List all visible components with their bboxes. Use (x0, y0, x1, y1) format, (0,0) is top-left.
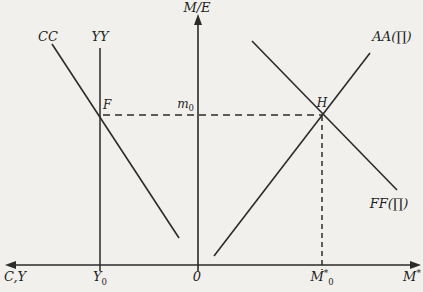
m0-label-sub: 0 (189, 103, 194, 113)
point-h-label-text: H (317, 96, 327, 110)
cc-line (52, 44, 179, 238)
ff-curve-label-text: FF(∏) (370, 196, 409, 211)
dd-aa-diagram: M/E CC YY F m0 H AA(∏) FF(∏) C,Y Y0 0 M*… (0, 0, 423, 292)
mstar0-tick-label: M*0 (310, 270, 333, 283)
yy-curve-label-text: YY (91, 29, 108, 44)
yy-curve-label: YY (91, 30, 108, 43)
mstar0-tick-label-sub: 0 (328, 277, 333, 287)
aa-curve-label-text: AA(∏) (372, 29, 411, 44)
point-f-label: F (103, 99, 111, 111)
horizontal-axis-right-label-sup: * (416, 268, 421, 278)
mstar0-tick-label-main: M (310, 269, 323, 284)
origin-label: 0 (193, 270, 201, 283)
y0-tick-label-sub: 0 (102, 277, 107, 287)
diagram-canvas (0, 0, 423, 292)
cc-curve-label-text: CC (38, 29, 58, 44)
aa-line (214, 53, 370, 256)
vertical-axis-label-text: M/E (183, 0, 210, 15)
horizontal-axis-left-label-text: C,Y (4, 269, 26, 284)
m0-label: m0 (177, 98, 194, 110)
horizontal-axis-left-label: C,Y (4, 270, 26, 283)
aa-curve-label: AA(∏) (372, 30, 411, 43)
point-f-label-text: F (103, 98, 111, 112)
cc-curve-label: CC (38, 30, 58, 43)
horizontal-axis-right-label: M* (403, 270, 421, 283)
y0-tick-label-main: Y (93, 269, 102, 284)
left-arrowhead-icon (5, 261, 16, 269)
up-arrowhead-icon (194, 14, 202, 25)
horizontal-axis-right-label-main: M (403, 269, 416, 284)
vertical-axis-label: M/E (183, 1, 210, 14)
m0-label-main: m (177, 97, 188, 111)
point-h-label: H (317, 97, 327, 109)
y0-tick-label: Y0 (93, 270, 107, 283)
origin-label-text: 0 (193, 269, 201, 284)
ff-curve-label: FF(∏) (370, 197, 409, 210)
